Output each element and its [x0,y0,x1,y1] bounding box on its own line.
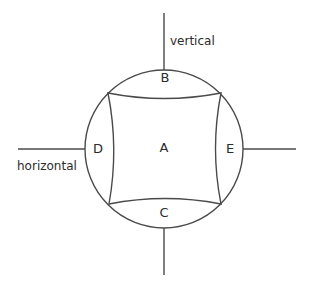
diagram-canvas: A B C D E vertical horizontal [0,0,313,289]
region-label-b: B [161,70,170,85]
horizontal-axis-label: horizontal [17,159,77,173]
region-label-d: D [93,141,103,156]
vertical-axis-label: vertical [170,34,215,48]
diagram-figure: A B C D E vertical horizontal [0,0,313,289]
region-label-c: C [159,205,168,220]
region-label-a: A [160,140,169,155]
region-label-e: E [226,141,234,156]
